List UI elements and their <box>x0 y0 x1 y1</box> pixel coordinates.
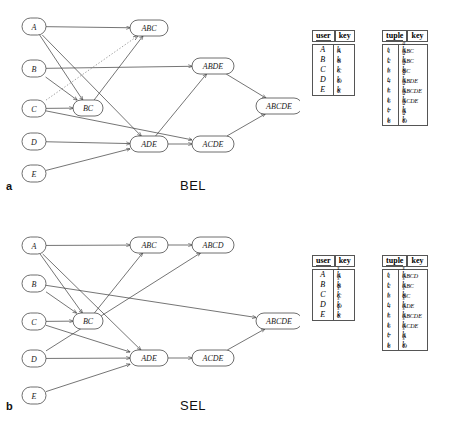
table-row: t8 ksD <box>383 340 427 350</box>
table-row: BkB <box>313 55 354 65</box>
table-cell-identifier: A <box>313 270 334 280</box>
table-row: t8 kaD <box>383 115 427 125</box>
table-cell-identifier: A <box>313 45 334 55</box>
node-label-C: C <box>31 105 37 114</box>
table-row: t5 ksABCDE <box>383 310 427 320</box>
node-ACDE[interactable]: ACDE <box>192 350 234 366</box>
edge-BC-to-ABC <box>94 36 143 100</box>
edge-A-to-ADE <box>43 254 141 350</box>
table-cell-identifier: D <box>313 300 334 310</box>
table-body-wrapper-row: t1 ksABCD t2 ksABC t3 ksBC t4 ksADE t5 k… <box>382 269 428 351</box>
node-label-BC: BC <box>83 104 94 113</box>
table-cell-key: kE <box>334 85 354 95</box>
node-label-ABCD: ABCD <box>202 241 224 250</box>
node-label-ABCDE: ABCDE <box>265 102 292 111</box>
edge-D-to-ADE <box>46 142 130 144</box>
node-label-ABC: ABC <box>140 241 157 250</box>
table-cell-identifier: B <box>313 280 334 290</box>
key-expression: t4 <box>387 75 394 84</box>
table-cell-identifier: t6 <box>383 95 399 105</box>
user-key-table-bel: userkeyAkA BkB CkC DkD EkE <box>312 30 355 96</box>
panel-sel: AABCABCDBCBCABCDEDADEACDEE b SEL userkey… <box>0 210 469 426</box>
key-expression: ksABCD <box>402 270 420 279</box>
node-E[interactable]: E <box>22 387 46 404</box>
key-expression: t6 <box>387 95 394 104</box>
node-label-D: D <box>30 355 37 364</box>
node-ABCDE[interactable]: ABCDE <box>256 313 300 329</box>
table-cell-identifier: t7 <box>383 330 399 340</box>
table-row: EkE <box>313 85 354 95</box>
key-expression: t6 <box>387 320 394 329</box>
node-label-ACDE: ACDE <box>202 140 224 149</box>
edge-B-to-BC <box>46 292 76 313</box>
node-ADE[interactable]: ADE <box>130 350 168 366</box>
table-cell-identifier: B <box>313 55 334 65</box>
table-body: t1 kaABC t2 kaABC t3 kaBC t4 kaABDE t5 k… <box>383 45 427 125</box>
node-E[interactable]: E <box>22 165 46 182</box>
node-BC[interactable]: BC <box>73 100 103 116</box>
key-expression: kaD <box>402 115 410 124</box>
node-ACDE[interactable]: ACDE <box>192 136 234 152</box>
node-ABC[interactable]: ABC <box>130 237 168 253</box>
table-row: t7 ksA <box>383 330 427 340</box>
node-label-ADE: ADE <box>140 140 157 149</box>
key-expression: t2 <box>387 55 394 64</box>
edge-ABDE-to-ABCDE <box>226 74 266 98</box>
node-D[interactable]: D <box>22 133 46 150</box>
node-C[interactable]: C <box>22 313 46 330</box>
node-label-ADE: ADE <box>140 354 157 363</box>
table-cell-identifier: t5 <box>383 310 399 320</box>
table-cell-identifier: C <box>313 65 334 75</box>
table-body: AkA BkB CkC DkD EkE <box>313 45 354 95</box>
node-BC[interactable]: BC <box>73 313 103 329</box>
table-body-box: t1 kaABC t2 kaABC t3 kaBC t4 kaABDE t5 k… <box>382 44 428 126</box>
table-body: AksA BksB CksC DksD EksE <box>313 270 354 320</box>
table-body-wrapper-row: AksA BksB CksC DksD EksE <box>312 269 355 321</box>
node-label-C: C <box>31 318 37 327</box>
table-row: BksB <box>313 280 354 290</box>
node-label-B: B <box>32 65 37 74</box>
key-expression: kB <box>337 55 345 64</box>
table-cell-identifier: t2 <box>383 280 399 290</box>
table-header-cell: key <box>407 255 427 267</box>
user-key-table-sel: userkeyAksA BksB CksC DksD EksE <box>312 255 355 321</box>
node-A[interactable]: A <box>22 237 46 254</box>
table-body: t1 ksABCD t2 ksABC t3 ksBC t4 ksADE t5 k… <box>383 270 427 350</box>
node-ABDE[interactable]: ABDE <box>192 58 234 74</box>
table-cell-identifier: C <box>313 290 334 300</box>
panel-a-name: BEL <box>180 178 206 193</box>
table-cell-key: kD <box>334 75 354 85</box>
edge-D-to-ABCD <box>46 253 200 351</box>
node-B[interactable]: B <box>22 60 46 77</box>
node-ABCD[interactable]: ABCD <box>192 237 234 253</box>
table-body-box: t1 ksABCD t2 ksABC t3 ksBC t4 ksADE t5 k… <box>382 269 428 351</box>
key-expression: t4 <box>387 300 394 309</box>
key-expression: t5 <box>387 310 394 319</box>
node-ADE[interactable]: ADE <box>130 136 168 152</box>
table-row: t3 ksBC <box>383 290 427 300</box>
node-B[interactable]: B <box>22 275 46 292</box>
table-body-wrapper-row: AkA BkB CkC DkD EkE <box>312 44 355 96</box>
key-expression: ksABCDE <box>402 310 424 319</box>
table-cell-identifier: t3 <box>383 290 399 300</box>
node-ABCDE[interactable]: ABCDE <box>256 98 300 114</box>
table-header-cell: key <box>407 30 427 42</box>
edge-A-to-ABC <box>46 27 130 28</box>
table-cell-key: kA <box>334 45 354 55</box>
table-cell-identifier: t1 <box>383 270 399 280</box>
table-header-row: userkey <box>312 255 355 267</box>
key-expression: ksACDE <box>402 320 420 329</box>
edge-ACDE-to-ABCDE <box>227 329 264 350</box>
table-row: EksE <box>313 310 354 320</box>
node-ABC[interactable]: ABC <box>130 20 168 36</box>
table-cell-identifier: t1 <box>383 45 399 55</box>
node-A[interactable]: A <box>22 18 46 35</box>
panel-a-letter: a <box>6 180 12 192</box>
node-D[interactable]: D <box>22 350 46 367</box>
table-header-cell: user <box>312 30 335 42</box>
table-row: t1 ksABCD <box>383 270 427 280</box>
table-cell-identifier: E <box>313 85 334 95</box>
node-label-E: E <box>31 170 37 179</box>
node-label-E: E <box>31 392 37 401</box>
node-C[interactable]: C <box>22 100 46 117</box>
